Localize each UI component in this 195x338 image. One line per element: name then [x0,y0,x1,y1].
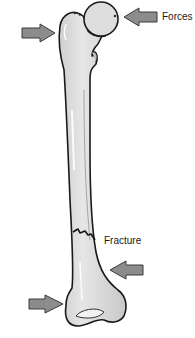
femur-bone [59,2,126,326]
force-arrow-upper-right [124,8,157,26]
force-arrow-upper-left [22,24,55,42]
caption-fragment [2,331,193,338]
forces-label: Forces [162,11,193,22]
force-arrow-lower-left [29,295,63,313]
force-arrow-lower-right [110,261,143,279]
fracture-label: Fracture [104,235,141,246]
femur-diagram [0,0,195,338]
